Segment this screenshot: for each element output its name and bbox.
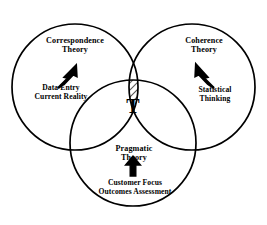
label-coherence-concept: Statistical Thinking bbox=[176, 86, 254, 103]
label-correspondence-concept-line2: Current Reality bbox=[8, 93, 114, 102]
label-correspondence-theory-line2: Theory bbox=[16, 45, 134, 54]
label-coherence-theory: Coherence Theory bbox=[148, 36, 260, 54]
label-correspondence-concept: Data Entry Current Reality bbox=[8, 84, 114, 101]
label-pragmatic-theory: Pragmatic Theory bbox=[82, 144, 186, 162]
label-pragmatic-theory-line1: Pragmatic bbox=[82, 144, 186, 153]
label-correspondence-theory-line1: Correspondence bbox=[16, 36, 134, 45]
label-coherence-theory-line2: Theory bbox=[148, 45, 260, 54]
label-coherence-theory-line1: Coherence bbox=[148, 36, 260, 45]
center-truth-symbol: T bbox=[113, 96, 153, 116]
label-pragmatic-theory-line2: Theory bbox=[82, 153, 186, 162]
label-pragmatic-concept: Customer Focus Outcomes Assessment bbox=[68, 179, 202, 196]
label-pragmatic-concept-line2: Outcomes Assessment bbox=[68, 188, 202, 197]
label-correspondence-theory: Correspondence Theory bbox=[16, 36, 134, 54]
label-coherence-concept-line2: Thinking bbox=[176, 95, 254, 104]
diagram-canvas: Correspondence Theory Data Entry Current… bbox=[0, 0, 267, 225]
